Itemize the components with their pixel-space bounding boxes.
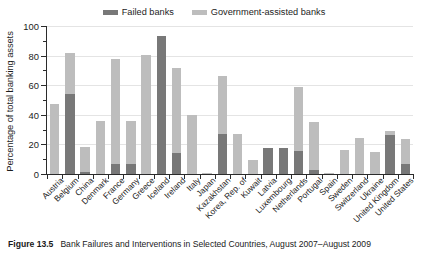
bar-segment-government-assisted-banks [141,55,150,174]
chart-legend: Failed banks Government-assisted banks [0,4,428,20]
x-axis-tick [352,175,353,179]
x-axis-tick [306,175,307,179]
bar-group [80,26,89,174]
x-axis-tick [215,175,216,179]
y-axis-tick [41,144,47,145]
bar-stack [111,59,120,174]
y-axis-tick-label: 20 [17,140,39,149]
bar-segment-government-assisted-banks [111,59,120,163]
x-axis-tick [200,175,201,179]
x-axis-tick [230,175,231,179]
bar-group [385,26,394,174]
x-axis-tick [154,175,155,179]
bar-segment-failed-banks [385,135,394,174]
figure-caption: Figure 13.5Bank Failures and Interventio… [8,239,424,250]
bar-group [157,26,166,174]
y-axis-minor-tick [43,100,47,101]
bar-series-group [47,26,413,174]
x-axis-tick [139,175,140,179]
bar-group [294,26,303,174]
bar-segment-government-assisted-banks [324,173,333,174]
y-axis-minor-tick [43,70,47,71]
bar-stack [355,138,364,174]
y-axis-minor-tick [43,159,47,160]
bar-stack [50,104,59,174]
bar-segment-failed-banks [157,36,166,174]
bar-segment-failed-banks [294,151,303,174]
y-axis-tick-label: 60 [17,81,39,90]
bar-group [187,26,196,174]
bar-stack [80,147,89,174]
x-axis-tick [78,175,79,179]
bar-stack [370,152,379,174]
y-axis-tick-label: 100 [17,22,39,31]
x-axis-tick [413,175,414,179]
y-axis-minor-tick [43,41,47,42]
bar-group [324,26,333,174]
bar-group [370,26,379,174]
y-axis-tick [41,115,47,116]
bar-segment-government-assisted-banks [248,160,257,174]
bar-group [96,26,105,174]
x-axis-tick [337,175,338,179]
bar-stack [65,53,74,174]
legend-label-failed-banks: Failed banks [122,7,174,17]
x-axis-tick [108,175,109,179]
bar-segment-government-assisted-banks [370,152,379,174]
figure-caption-text: Bank Failures and Interventions in Selec… [60,239,371,249]
bar-stack [126,121,135,174]
bar-segment-government-assisted-banks [172,68,181,152]
bar-segment-government-assisted-banks [80,147,89,171]
y-axis-tick [41,56,47,57]
bar-stack [157,36,166,174]
y-axis-minor-tick [43,130,47,131]
bar-segment-government-assisted-banks [126,121,135,164]
bar-segment-government-assisted-banks [50,104,59,174]
bar-group [355,26,364,174]
legend-entry-government-assisted-banks: Government-assisted banks [192,7,325,17]
bar-stack [294,87,303,174]
bar-stack [309,122,318,174]
bar-segment-government-assisted-banks [401,139,410,164]
bar-group [309,26,318,174]
x-axis-tick [184,175,185,179]
x-axis-tick [47,175,48,179]
bar-group [279,26,288,174]
bar-segment-government-assisted-banks [218,76,227,134]
bar-segment-failed-banks [111,164,120,174]
x-axis-tick [123,175,124,179]
bar-group [111,26,120,174]
bar-segment-failed-banks [65,94,74,174]
bar-segment-government-assisted-banks [187,115,196,174]
bar-group [141,26,150,174]
bar-segment-government-assisted-banks [309,122,318,170]
y-axis-tick-label: 80 [17,52,39,61]
bar-segment-government-assisted-banks [96,121,105,174]
legend-entry-failed-banks: Failed banks [103,7,174,17]
bar-stack [401,139,410,174]
x-axis-tick-labels: AustriaBelgiumChinaDenmarkFranceGermanyG… [0,176,428,232]
bar-group [172,26,181,174]
bar-group [126,26,135,174]
bar-stack [385,131,394,174]
y-axis-tick-label: 40 [17,111,39,120]
y-axis-tick [41,26,47,27]
x-axis-tick [62,175,63,179]
bar-segment-government-assisted-banks [202,173,211,174]
bar-stack [324,173,333,174]
bar-segment-government-assisted-banks [355,138,364,174]
x-axis-tick [383,175,384,179]
bar-group [65,26,74,174]
figure-container: Failed banks Government-assisted banks P… [0,0,428,253]
bar-stack [96,121,105,174]
bar-segment-failed-banks [263,148,272,174]
bar-stack [233,134,242,174]
bar-segment-failed-banks [80,172,89,174]
bar-segment-failed-banks [218,134,227,174]
figure-number: Figure 13.5 [8,239,53,249]
x-axis-tick [322,175,323,179]
y-axis-tick [41,85,47,86]
bar-segment-failed-banks [126,164,135,174]
bar-stack [279,148,288,174]
bar-stack [218,76,227,174]
